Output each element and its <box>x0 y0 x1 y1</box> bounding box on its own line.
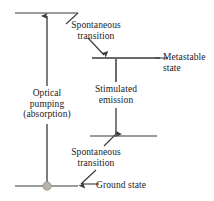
spontaneous-bot-arrow <box>81 170 96 184</box>
label-line: pumping <box>12 99 82 110</box>
label-line: Optical <box>12 88 82 99</box>
label-line: transition <box>62 158 130 169</box>
label-line: Ground state <box>96 180 168 191</box>
energy-level-diagram: Spontaneous transition Metastable state … <box>0 0 214 201</box>
label-metastable-state: Metastable state <box>163 52 213 73</box>
label-line: Metastable <box>163 52 213 63</box>
label-line: Stimulated <box>84 84 148 95</box>
label-spontaneous-transition-upper: Spontaneous transition <box>62 20 130 41</box>
label-line: state <box>163 63 213 74</box>
label-line: Spontaneous <box>62 147 130 158</box>
label-line: transition <box>62 31 130 42</box>
ground-state-marker <box>43 182 51 190</box>
label-ground-state: Ground state <box>96 180 168 191</box>
label-spontaneous-transition-lower: Spontaneous transition <box>62 147 130 168</box>
spontaneous-bot-leader-line <box>104 132 118 146</box>
label-optical-pumping: Optical pumping (absorption) <box>12 88 82 120</box>
label-stimulated-emission: Stimulated emission <box>84 84 148 105</box>
label-line: (absorption) <box>12 109 82 120</box>
label-line: emission <box>84 95 148 106</box>
label-line: Spontaneous <box>62 20 130 31</box>
